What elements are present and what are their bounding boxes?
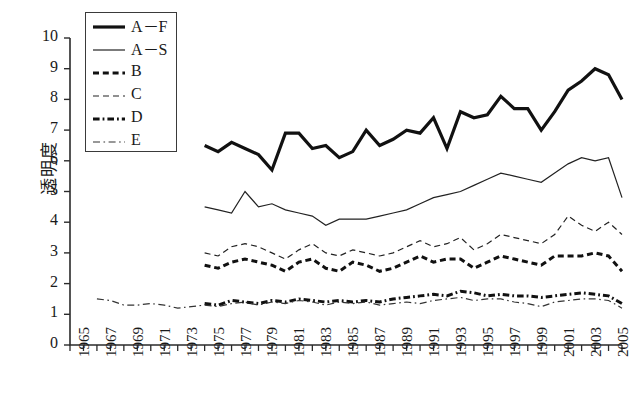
x-tick-label: 1999 bbox=[534, 327, 551, 357]
legend-label: E bbox=[131, 131, 141, 149]
x-tick-label: 1969 bbox=[130, 327, 147, 357]
x-tick-label: 2005 bbox=[615, 327, 632, 357]
legend-label: A－F bbox=[131, 13, 167, 37]
x-tick-label: 1997 bbox=[507, 327, 524, 357]
x-tick-label: 1985 bbox=[345, 327, 362, 357]
x-tick-label: 1973 bbox=[184, 327, 201, 357]
legend-entry: B bbox=[86, 59, 176, 82]
y-tick-label: 5 bbox=[32, 181, 58, 199]
legend-entry: A－S bbox=[86, 36, 176, 59]
x-tick-label: 2003 bbox=[588, 327, 605, 357]
x-tick-label: 1967 bbox=[103, 327, 120, 357]
chart-legend: A－FA－SBCDE bbox=[85, 12, 177, 152]
y-tick-label: 8 bbox=[32, 88, 58, 106]
x-tick-label: 1971 bbox=[157, 327, 174, 357]
legend-line-sample-icon bbox=[92, 134, 126, 146]
y-tick-label: 9 bbox=[32, 58, 58, 76]
legend-entry: D bbox=[86, 105, 176, 128]
x-tick-label: 1983 bbox=[318, 327, 335, 357]
y-tick-label: 2 bbox=[32, 273, 58, 291]
series-line-af-0 bbox=[205, 69, 622, 170]
y-tick-label: 4 bbox=[32, 211, 58, 229]
legend-line-sample-icon bbox=[92, 42, 126, 54]
x-tick-label: 1991 bbox=[426, 327, 443, 357]
y-tick-label: 1 bbox=[32, 303, 58, 321]
x-tick-label: 1975 bbox=[211, 327, 228, 357]
series-line-c-3 bbox=[205, 216, 622, 259]
legend-label: B bbox=[131, 62, 142, 80]
legend-line-sample-icon bbox=[92, 111, 126, 123]
x-tick-label: 1981 bbox=[291, 327, 308, 357]
legend-line-sample-icon bbox=[92, 65, 126, 77]
legend-entry: C bbox=[86, 82, 176, 105]
chart-container: 透明度 A－FA－SBCDE 0123456789101965196719691… bbox=[0, 0, 634, 418]
x-tick-label: 2001 bbox=[561, 327, 578, 357]
y-tick-label: 10 bbox=[32, 27, 58, 45]
legend-label: A－S bbox=[131, 36, 167, 60]
y-tick-label: 7 bbox=[32, 119, 58, 137]
y-tick-label: 6 bbox=[32, 150, 58, 168]
legend-label: D bbox=[131, 108, 143, 126]
legend-line-sample-icon bbox=[92, 88, 126, 100]
x-tick-label: 1965 bbox=[76, 327, 93, 357]
y-tick-label: 0 bbox=[32, 334, 58, 352]
legend-entry: E bbox=[86, 128, 176, 151]
x-tick-label: 1977 bbox=[238, 327, 255, 357]
x-tick-label: 1993 bbox=[453, 327, 470, 357]
x-tick-label: 1987 bbox=[372, 327, 389, 357]
y-tick-label: 3 bbox=[32, 242, 58, 260]
series-line-e-5 bbox=[97, 297, 622, 308]
legend-line-sample-icon bbox=[92, 19, 126, 31]
x-tick-label: 1989 bbox=[399, 327, 416, 357]
x-tick-label: 1995 bbox=[480, 327, 497, 357]
legend-entry: A－F bbox=[86, 13, 176, 36]
series-line-as-1 bbox=[205, 158, 622, 226]
legend-label: C bbox=[131, 85, 142, 103]
series-line-b-2 bbox=[205, 253, 622, 271]
x-tick-label: 1979 bbox=[264, 327, 281, 357]
